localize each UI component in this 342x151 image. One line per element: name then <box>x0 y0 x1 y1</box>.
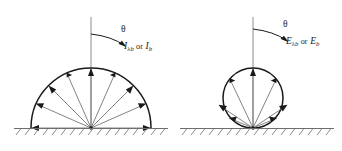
intensity-ray-group <box>31 68 151 131</box>
blackbody-radiation-diagram: θ IλborIb <box>0 0 342 151</box>
theta-arc-right <box>253 29 289 42</box>
panel-left-intensity: θ IλborIb <box>14 17 168 135</box>
theta-label-left: θ <box>121 24 126 34</box>
panel-right-emissive-power: θ EλborEb <box>180 17 334 135</box>
radiation-diagram-figure: θ IλborIb <box>0 0 342 151</box>
theta-label-right: θ <box>283 19 288 29</box>
theta-arc-left <box>91 34 127 47</box>
surface-right <box>180 129 334 136</box>
intensity-label: IλborIb <box>123 41 153 52</box>
emissive-power-ray-group <box>219 68 288 128</box>
emissive-power-label: EλborEb <box>285 36 320 47</box>
